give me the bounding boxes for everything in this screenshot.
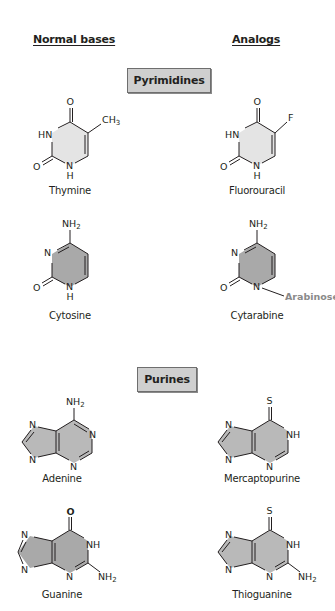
- svg-text:N: N: [225, 564, 232, 575]
- svg-text:S: S: [267, 505, 273, 516]
- thioguanine-label: Thioguanine: [232, 589, 292, 600]
- svg-text:N: N: [225, 529, 232, 540]
- svg-text:NH2: NH2: [298, 571, 317, 584]
- svg-text:NH: NH: [286, 539, 300, 550]
- svg-text:N: N: [266, 571, 273, 582]
- thioguanine-structure: S N NH N N NH2: [0, 0, 335, 611]
